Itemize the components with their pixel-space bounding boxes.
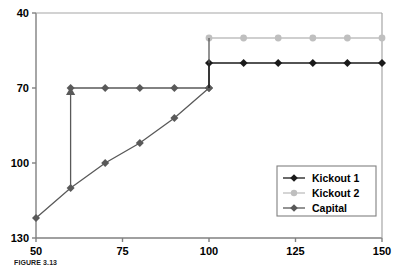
figure-caption: FIGURE 3.13 xyxy=(14,259,404,266)
data-point-kickout-2 xyxy=(309,35,316,42)
y-tick-label: 40 xyxy=(17,7,29,19)
x-tick-label: 75 xyxy=(116,245,128,257)
series-line-capital xyxy=(36,88,209,218)
legend-marker-1 xyxy=(291,190,297,196)
data-point-kickout-1 xyxy=(240,59,248,67)
legend-label-0: Kickout 1 xyxy=(312,172,359,184)
data-point-kickout-2 xyxy=(379,35,386,42)
legend-label-2: Capital xyxy=(312,202,347,214)
x-tick-label: 125 xyxy=(286,245,304,257)
chart-canvas: 13010070405075100125150Kickout 1Kickout … xyxy=(0,0,406,269)
y-tick-label: 100 xyxy=(11,157,29,169)
data-point-capital-ceiling xyxy=(101,84,109,92)
data-point-kickout-2 xyxy=(240,35,247,42)
data-point-kickout-1 xyxy=(343,59,351,67)
data-point-kickout-1 xyxy=(274,59,282,67)
data-point-capital-ceiling xyxy=(136,84,144,92)
data-point-kickout-2 xyxy=(344,35,351,42)
data-point-kickout-1 xyxy=(309,59,317,67)
data-point-kickout-2 xyxy=(275,35,282,42)
data-point-capital-ceiling xyxy=(170,84,178,92)
x-tick-label: 150 xyxy=(373,245,391,257)
x-tick-label: 100 xyxy=(200,245,218,257)
y-tick-label: 130 xyxy=(11,232,29,244)
data-point-kickout-1 xyxy=(378,59,386,67)
x-tick-label: 50 xyxy=(30,245,42,257)
figure-container: 13010070405075100125150Kickout 1Kickout … xyxy=(0,0,406,269)
legend-label-1: Kickout 2 xyxy=(312,187,359,199)
y-tick-label: 70 xyxy=(17,82,29,94)
